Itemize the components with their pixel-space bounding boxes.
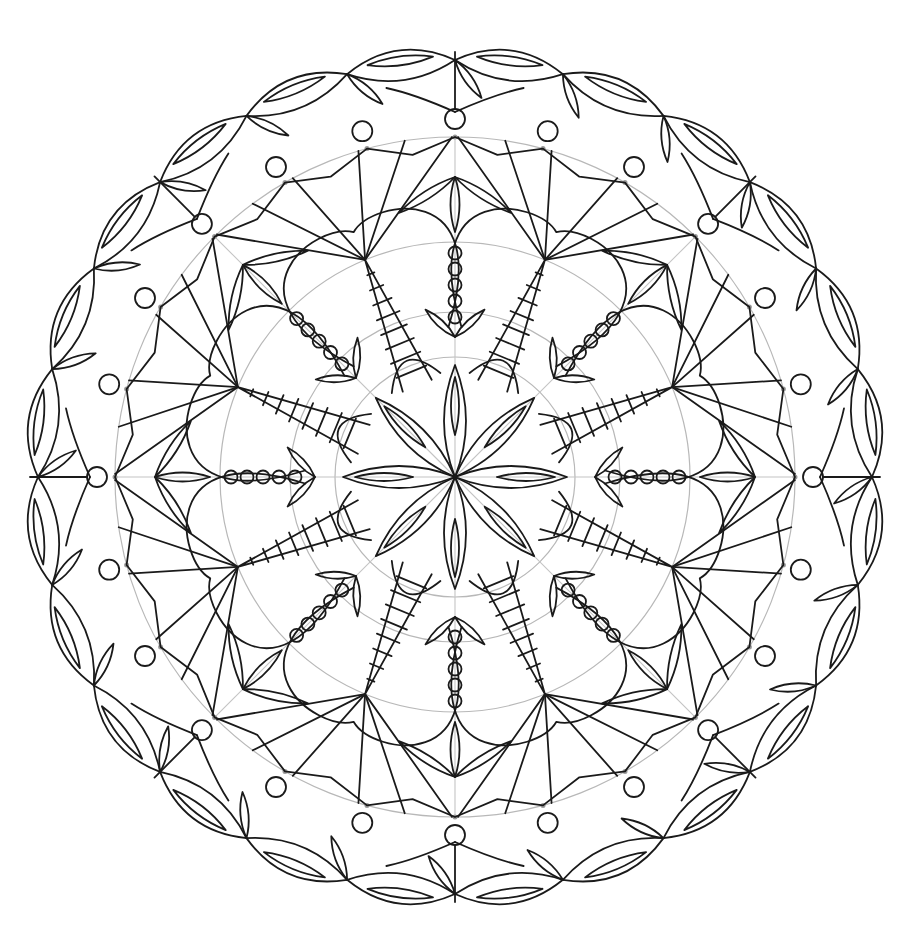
mandala-line-art [28, 50, 883, 905]
mandala-drawing [0, 0, 897, 940]
